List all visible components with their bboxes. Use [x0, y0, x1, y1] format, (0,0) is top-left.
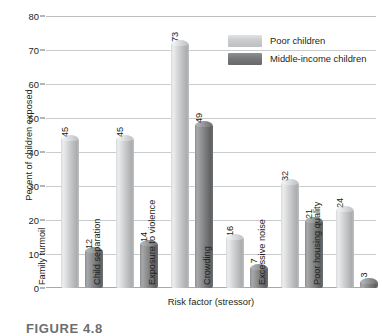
- bar-value-label-5-0: 24: [335, 198, 345, 208]
- y-tick-label-0: 0: [13, 283, 39, 294]
- y-tick-label-40: 40: [13, 147, 39, 158]
- gridline-50: [46, 118, 376, 119]
- bar-value-label-3-0: 16: [225, 225, 235, 235]
- bar-value-label-2-0: 73: [170, 32, 180, 42]
- bar-value-label-0-0: 45: [60, 127, 70, 137]
- y-tick-label-10: 10: [13, 249, 39, 260]
- bar-value-label-2-1: 49: [194, 113, 204, 123]
- y-tick-mark-60: [40, 84, 45, 85]
- x-category-label-4: Excessive noise: [257, 219, 267, 285]
- x-category-label-3: Crowding: [202, 246, 212, 285]
- legend-item-middle-income-children: Middle-income children: [228, 51, 366, 66]
- x-category-label-2: Exposure to violence: [147, 200, 157, 285]
- bar-4-0: 32: [281, 179, 299, 288]
- y-tick-mark-70: [40, 50, 45, 51]
- y-tick-mark-30: [40, 186, 45, 187]
- y-tick-label-20: 20: [13, 215, 39, 226]
- gridline-80: [46, 16, 376, 17]
- legend-item-poor-children: Poor children: [228, 33, 366, 48]
- x-category-label-1: Child separation: [92, 219, 102, 285]
- x-category-label-0: Family turmoil: [37, 228, 47, 285]
- legend-swatch-middle-income-children: [228, 53, 262, 65]
- y-tick-label-50: 50: [13, 113, 39, 124]
- y-tick-mark-40: [40, 152, 45, 153]
- bar-0-0: 45: [61, 135, 79, 288]
- x-axis-title: Risk factor (stressor): [46, 296, 376, 307]
- y-tick-mark-20: [40, 220, 45, 221]
- y-tick-label-30: 30: [13, 181, 39, 192]
- legend-swatch-poor-children: [228, 35, 262, 47]
- figure-caption: FIGURE 4.8: [26, 321, 103, 336]
- bar-value-label-4-0: 32: [280, 171, 290, 181]
- bar-5-0: 24: [336, 206, 354, 288]
- legend-label-poor-children: Poor children: [270, 35, 325, 46]
- y-tick-label-60: 60: [13, 79, 39, 90]
- y-tick-label-80: 80: [13, 11, 39, 22]
- chart-legend: Poor children Middle-income children: [228, 33, 366, 69]
- bar-value-label-5-1: 3: [359, 272, 369, 277]
- bar-5-1: 3: [360, 278, 378, 288]
- bar-1-0: 45: [116, 135, 134, 288]
- legend-label-middle-income-children: Middle-income children: [270, 53, 366, 64]
- y-tick-mark-80: [40, 16, 45, 17]
- y-tick-label-70: 70: [13, 45, 39, 56]
- bar-value-label-1-0: 45: [115, 127, 125, 137]
- gridline-60: [46, 84, 376, 85]
- y-tick-mark-50: [40, 118, 45, 119]
- bar-2-0: 73: [171, 40, 189, 288]
- y-tick-mark-0: [40, 288, 45, 289]
- x-category-label-5: Poor housing quality: [312, 202, 322, 285]
- bar-3-0: 16: [226, 234, 244, 288]
